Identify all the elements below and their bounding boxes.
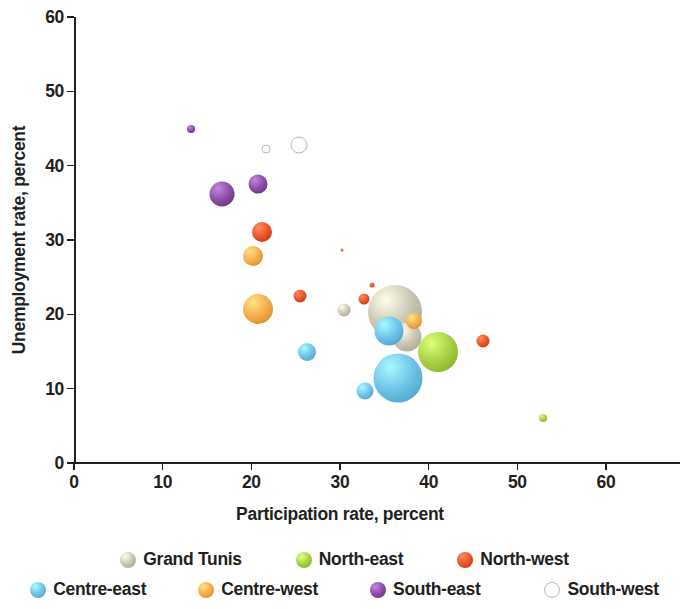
bubble-south-west xyxy=(261,145,270,154)
bubble-south-east xyxy=(187,125,195,133)
bubble-north-east xyxy=(418,332,458,372)
x-tick xyxy=(605,463,607,470)
bubble-south-east xyxy=(249,174,268,193)
bubble-south-west xyxy=(291,136,308,153)
bubble-north-west xyxy=(340,249,343,252)
legend-label: South-west xyxy=(567,581,658,599)
x-tick xyxy=(162,463,164,470)
bubble-centre-west xyxy=(243,246,263,266)
legend-swatch-icon xyxy=(370,582,386,598)
legend-label: Centre-east xyxy=(53,581,146,599)
x-tick-label: 0 xyxy=(69,472,78,493)
x-tick xyxy=(517,463,519,470)
legend-item-centre-east[interactable]: Centre-east xyxy=(30,581,146,599)
legend-label: Grand Tunis xyxy=(143,551,241,569)
x-tick-label: 40 xyxy=(419,472,438,493)
legend-item-grand-tunis[interactable]: Grand Tunis xyxy=(120,551,241,569)
y-tick-label: 40 xyxy=(45,155,64,176)
bubble-centre-west xyxy=(243,294,273,324)
legend-row: Grand TunisNorth-eastNorth-west xyxy=(0,545,689,575)
y-axis-title: Unemployment rate, percent xyxy=(9,126,30,355)
legend-label: North-east xyxy=(319,551,404,569)
plot-area xyxy=(74,17,606,463)
bubble-centre-east xyxy=(373,354,422,403)
x-tick xyxy=(251,463,253,470)
y-tick xyxy=(67,91,74,93)
legend-swatch-icon xyxy=(457,552,473,568)
legend-label: South-east xyxy=(393,581,480,599)
x-tick-label: 60 xyxy=(597,472,616,493)
y-tick xyxy=(67,388,74,390)
legend-row: Centre-eastCentre-westSouth-eastSouth-we… xyxy=(0,575,689,605)
bubble-north-west xyxy=(476,335,489,348)
bubble-north-west xyxy=(369,282,374,287)
x-tick xyxy=(73,463,75,470)
x-tick-label: 50 xyxy=(508,472,527,493)
y-tick-label: 60 xyxy=(45,7,64,28)
y-tick-label: 10 xyxy=(45,378,64,399)
y-tick xyxy=(67,165,74,167)
legend-item-north-west[interactable]: North-west xyxy=(457,551,568,569)
y-tick-label: 30 xyxy=(45,230,64,251)
legend-item-south-west[interactable]: South-west xyxy=(544,581,658,599)
legend-swatch-icon xyxy=(198,582,214,598)
bubble-north-west xyxy=(252,222,272,242)
bubble-south-east xyxy=(210,181,235,206)
x-tick-label: 10 xyxy=(153,472,172,493)
bubble-chart-figure: 01020304050600102030405060 Unemployment … xyxy=(0,0,689,609)
y-tick-label: 0 xyxy=(55,453,64,474)
chart-legend: Grand TunisNorth-eastNorth-westCentre-ea… xyxy=(0,545,689,605)
bubble-north-east xyxy=(539,414,547,422)
bubble-north-west xyxy=(358,294,369,305)
legend-item-centre-west[interactable]: Centre-west xyxy=(198,581,318,599)
legend-label: North-west xyxy=(480,551,568,569)
legend-swatch-icon xyxy=(296,552,312,568)
legend-swatch-icon xyxy=(120,552,136,568)
x-tick xyxy=(428,463,430,470)
legend-swatch-icon xyxy=(544,582,560,598)
y-tick-label: 50 xyxy=(45,81,64,102)
bubble-centre-east xyxy=(356,382,373,399)
bubble-centre-east xyxy=(374,316,403,345)
bubble-north-west xyxy=(294,289,307,302)
y-tick xyxy=(67,314,74,316)
x-tick xyxy=(339,463,341,470)
y-tick xyxy=(67,239,74,241)
y-tick xyxy=(67,16,74,18)
x-axis-title: Participation rate, percent xyxy=(236,504,444,525)
x-tick-label: 20 xyxy=(242,472,261,493)
bubble-grand-tunis xyxy=(337,303,350,316)
legend-item-north-east[interactable]: North-east xyxy=(296,551,404,569)
bubble-centre-west xyxy=(406,313,422,329)
legend-item-south-east[interactable]: South-east xyxy=(370,581,480,599)
bubble-centre-east xyxy=(298,343,316,361)
y-tick-label: 20 xyxy=(45,304,64,325)
legend-label: Centre-west xyxy=(221,581,318,599)
x-tick-label: 30 xyxy=(331,472,350,493)
legend-swatch-icon xyxy=(30,582,46,598)
